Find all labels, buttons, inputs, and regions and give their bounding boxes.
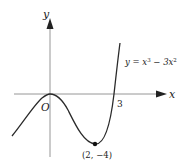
x-axis-label: x — [169, 88, 176, 101]
origin-label: O — [41, 101, 50, 113]
minimum-point-marker — [93, 142, 97, 146]
cubic-curve — [12, 43, 120, 144]
minimum-point-label: (2, −4) — [82, 150, 112, 160]
cubic-graph: y x O 3 (2, −4) y = x3 − 3x2 — [0, 0, 181, 162]
equation-label: y = x3 − 3x2 — [124, 57, 177, 68]
y-axis-label: y — [42, 8, 50, 21]
x-axis-arrow-icon — [156, 91, 167, 98]
x-intercept-label: 3 — [117, 99, 123, 109]
